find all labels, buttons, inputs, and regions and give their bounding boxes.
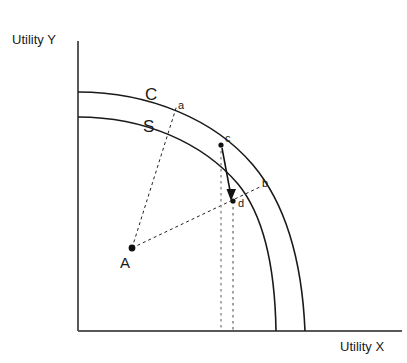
curve-label-s: S [143,117,154,136]
point-dot-d [230,198,235,203]
frontier-curve-c [78,92,305,331]
point-label-a: A [120,254,130,271]
point-label-small-a: a [178,99,185,111]
x-axis-label: Utility X [340,339,384,354]
point-label-c: c [225,132,231,144]
point-label-b: b [262,177,268,189]
curve-label-c: C [145,85,157,104]
point-dot-c [218,142,223,147]
y-axis-label: Utility Y [12,32,56,47]
ray-a-to-a [132,105,177,248]
point-label-d: d [238,197,244,209]
point-dot-a-origin [129,245,136,252]
arrow-c-to-d-shaft [222,148,231,196]
chart-canvas: Utility Y Utility X C S A a b c d [0,0,407,363]
frontier-curve-s [78,117,276,331]
ray-a-to-b [132,186,262,248]
utility-frontier-figure: Utility Y Utility X C S A a b c d [0,0,407,363]
